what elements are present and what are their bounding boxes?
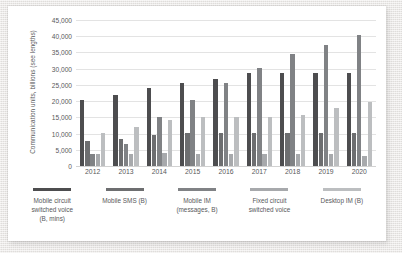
bar — [185, 133, 189, 166]
bar-group-2018 — [276, 20, 309, 166]
bar — [313, 73, 317, 166]
bar — [157, 117, 161, 166]
x-axis-label-2012: 2012 — [76, 168, 109, 182]
x-axis-label-2013: 2013 — [109, 168, 142, 182]
bar — [234, 117, 238, 166]
y-axis-tick-labels: 05,00010,00015,00020,00025,00030,00035,0… — [32, 20, 72, 166]
legend-swatch-icon — [178, 188, 216, 191]
bar — [196, 154, 200, 166]
y-axis-tick-5000: 5,000 — [55, 146, 72, 153]
bar — [290, 54, 294, 166]
bar — [190, 100, 194, 166]
bar — [257, 68, 261, 166]
legend-swatch-icon — [323, 188, 361, 191]
legend-swatch-icon — [250, 188, 288, 191]
legend-item-label: Mobile IM(messages, B) — [176, 196, 217, 214]
bar — [347, 73, 351, 166]
bar — [80, 100, 84, 166]
bar — [101, 133, 105, 166]
bar — [201, 117, 205, 166]
bar — [180, 83, 184, 166]
y-axis-tick-30000: 30,000 — [52, 65, 72, 72]
bar-group-2012 — [76, 20, 109, 166]
bar — [224, 83, 228, 166]
legend-item-0[interactable]: Mobile circuitswitched voice(B, mins) — [16, 188, 88, 236]
bar-groups — [76, 20, 376, 166]
y-axis-tick-20000: 20,000 — [52, 98, 72, 105]
bar-group-2013 — [109, 20, 142, 166]
bar — [213, 79, 217, 166]
x-axis-label-2020: 2020 — [343, 168, 376, 182]
bar — [368, 102, 372, 166]
bar — [152, 135, 156, 166]
x-axis-tick-labels: 201220132014201520162017201820192020 — [76, 168, 376, 182]
bar — [268, 117, 272, 166]
x-axis-label-2017: 2017 — [243, 168, 276, 182]
bar — [329, 154, 333, 166]
legend-item-label: Fixed circuitswitched voice — [249, 196, 291, 214]
bar — [134, 127, 138, 166]
chart-card: Communication units, billions (see lengt… — [8, 6, 386, 241]
legend-item-label: Mobile circuitswitched voice(B, mins) — [31, 196, 73, 223]
bar — [162, 153, 166, 166]
bar — [85, 141, 89, 166]
y-axis-tick-35000: 35,000 — [52, 49, 72, 56]
legend-item-2[interactable]: Mobile IM(messages, B) — [161, 188, 233, 236]
bar — [352, 133, 356, 166]
bar — [252, 133, 256, 166]
bar — [229, 154, 233, 166]
bar — [319, 133, 323, 166]
bar-group-2014 — [143, 20, 176, 166]
bar — [262, 154, 266, 166]
legend-item-label: Mobile SMS (B) — [102, 196, 147, 205]
bar-group-2015 — [176, 20, 209, 166]
bar — [113, 95, 117, 166]
legend-swatch-icon — [106, 188, 144, 191]
legend-item-label: Desktop IM (B) — [321, 196, 364, 205]
x-axis-label-2014: 2014 — [143, 168, 176, 182]
bar-group-2017 — [243, 20, 276, 166]
x-axis-label-2018: 2018 — [276, 168, 309, 182]
bar-group-2019 — [309, 20, 342, 166]
gridline-0 — [76, 166, 376, 167]
bar — [124, 144, 128, 166]
chart-legend: Mobile circuitswitched voice(B, mins)Mob… — [16, 188, 378, 236]
bar — [247, 73, 251, 166]
y-axis-tick-0: 0 — [68, 163, 72, 170]
bar — [362, 156, 366, 166]
bar — [168, 120, 172, 166]
bar — [119, 139, 123, 166]
y-axis-tick-25000: 25,000 — [52, 81, 72, 88]
x-axis-label-2015: 2015 — [176, 168, 209, 182]
bar — [96, 154, 100, 166]
bar-group-2016 — [209, 20, 242, 166]
bar — [357, 35, 361, 166]
bar — [280, 73, 284, 166]
bar — [324, 45, 328, 166]
bar — [301, 115, 305, 166]
y-axis-tick-40000: 40,000 — [52, 33, 72, 40]
y-axis-tick-45000: 45,000 — [52, 17, 72, 24]
bar — [147, 88, 151, 166]
bar — [219, 133, 223, 166]
bar — [334, 108, 338, 166]
legend-item-4[interactable]: Desktop IM (B) — [306, 188, 378, 236]
legend-swatch-icon — [33, 188, 71, 191]
bar — [90, 154, 94, 166]
bar — [129, 154, 133, 166]
legend-item-3[interactable]: Fixed circuitswitched voice — [233, 188, 305, 236]
x-axis-label-2016: 2016 — [209, 168, 242, 182]
legend-item-1[interactable]: Mobile SMS (B) — [88, 188, 160, 236]
x-axis-label-2019: 2019 — [309, 168, 342, 182]
y-axis-tick-15000: 15,000 — [52, 114, 72, 121]
bar — [285, 133, 289, 166]
y-axis-tick-10000: 10,000 — [52, 130, 72, 137]
bar — [296, 154, 300, 166]
bar-group-2020 — [343, 20, 376, 166]
